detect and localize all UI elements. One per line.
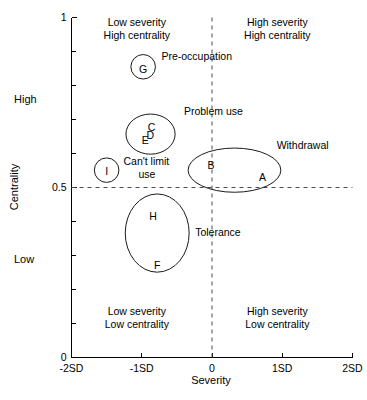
node-letter-a: A [259, 171, 266, 183]
cluster-label-pre-occupation: Pre-occupation [161, 50, 232, 62]
cluster-label-problem-use: Problem use [184, 105, 243, 117]
quadrant-label-bottom-left: Low severityLow centrality [105, 305, 170, 330]
cluster-problem-use: CDEProblem use [126, 105, 243, 154]
x-tick-label-4: 2SD [342, 362, 363, 374]
quadrant-label-top-left: Low severityHigh centrality [104, 16, 171, 41]
scatter-chart-figure: GPre-occupationCDEProblem useICan't limi… [0, 0, 367, 400]
cluster-label-withdrawal: Withdrawal [277, 139, 329, 151]
y-anchor-high: High [14, 93, 37, 105]
quadrant-label-top-right: High severityHigh centrality [244, 16, 311, 41]
node-letter-e: E [142, 134, 149, 146]
cluster-tolerance: HFTolerance [125, 194, 241, 272]
node-letter-h: H [149, 210, 157, 222]
node-letter-i: I [105, 165, 108, 177]
y-tick-label-2: 1 [61, 11, 67, 23]
cluster-label-cant-limit-use: Can't limituse [123, 155, 169, 180]
x-tick-label-3: 1SD [272, 362, 293, 374]
y-tick-label-1: 0.5 [52, 181, 67, 193]
plot-canvas: GPre-occupationCDEProblem useICan't limi… [0, 0, 367, 400]
cluster-pre-occupation: GPre-occupation [131, 50, 232, 79]
node-letter-f: F [154, 259, 160, 271]
y-tick-label-0: 0 [61, 351, 67, 363]
x-axis-title: Severity [191, 374, 231, 386]
y-axis-title: Centrality [8, 163, 20, 210]
x-tick-label-2: 0 [209, 362, 215, 374]
cluster-outline-withdrawal [188, 148, 281, 192]
quadrant-label-bottom-right: High severityLow centrality [245, 305, 310, 330]
y-anchor-low: Low [14, 253, 34, 265]
node-letter-b: B [207, 159, 214, 171]
tick-labels: -2SD-1SD01SD2SD00.51 [52, 11, 363, 373]
x-tick-label-1: -1SD [130, 362, 154, 374]
node-letter-g: G [139, 63, 147, 75]
cluster-group: GPre-occupationCDEProblem useICan't limi… [94, 50, 328, 272]
cluster-label-tolerance: Tolerance [195, 226, 241, 238]
cluster-withdrawal: BAWithdrawal [188, 139, 328, 192]
cluster-cant-limit-use: ICan't limituse [94, 155, 169, 182]
